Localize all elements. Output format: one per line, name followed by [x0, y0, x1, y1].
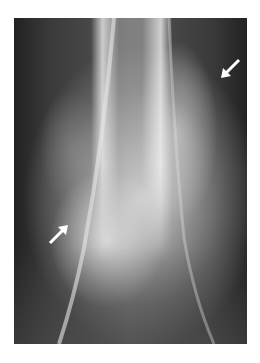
cortex-lines: [14, 18, 247, 344]
xray-image: [14, 18, 247, 344]
arrow-icon-lower-left: [46, 223, 70, 247]
arrow-icon-upper-right: [219, 56, 243, 80]
